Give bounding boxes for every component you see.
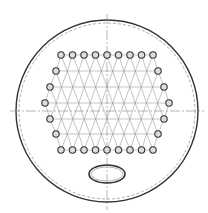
tube-hole bbox=[81, 52, 87, 58]
tube-hole bbox=[115, 147, 121, 153]
lattice-diagonal-line bbox=[73, 87, 79, 103]
lattice-diagonal-line bbox=[84, 103, 90, 119]
tube-hole bbox=[58, 52, 64, 58]
lattice-diagonal-line bbox=[79, 87, 84, 103]
tube-hole bbox=[53, 68, 59, 74]
lattice-diagonal-line bbox=[73, 71, 79, 87]
lattice-diagonal-line bbox=[79, 71, 85, 87]
lattice-diagonal-line bbox=[118, 119, 124, 134]
tube-hole bbox=[161, 116, 167, 122]
lattice-diagonal-line bbox=[96, 119, 102, 134]
tube-hole bbox=[166, 100, 172, 106]
lattice-diagonal-line bbox=[113, 119, 119, 134]
lattice-diagonal-line bbox=[73, 119, 79, 134]
lattice-diagonal-line bbox=[79, 119, 85, 134]
lattice-diagonal-line bbox=[68, 103, 73, 119]
lattice-diagonal-line bbox=[101, 119, 107, 134]
tube-hole bbox=[53, 131, 59, 137]
tube-hole bbox=[104, 147, 110, 153]
lattice-diagonal-line bbox=[61, 119, 67, 134]
lattice-diagonal-line bbox=[84, 119, 90, 134]
lattice-diagonal-line bbox=[68, 87, 73, 103]
tube-hole bbox=[69, 52, 75, 58]
lattice-diagonal-line bbox=[107, 71, 113, 87]
tube-hole bbox=[138, 52, 144, 58]
tube-hole bbox=[81, 147, 87, 153]
lattice-diagonal-line bbox=[96, 87, 102, 103]
lattice-diagonal-line bbox=[90, 71, 96, 87]
lattice-diagonal-line bbox=[141, 87, 146, 103]
lattice-diagonal-line bbox=[135, 119, 141, 134]
lattice-diagonal-line bbox=[84, 87, 90, 103]
tube-hole bbox=[127, 147, 133, 153]
tube-hole bbox=[47, 116, 53, 122]
tube-hole bbox=[42, 100, 48, 106]
lattice-diagonal-line bbox=[130, 87, 135, 103]
tube-hole bbox=[92, 147, 98, 153]
lattice-diagonal-line bbox=[61, 87, 67, 103]
tube-hole bbox=[155, 131, 161, 137]
lattice-diagonal-line bbox=[124, 87, 130, 103]
tube-hole bbox=[150, 147, 156, 153]
tube-hole bbox=[161, 84, 167, 90]
lattice-diagonal-line bbox=[130, 119, 136, 134]
tube-hole bbox=[115, 52, 121, 58]
lattice-diagonal-line bbox=[61, 71, 67, 87]
lattice-diagonal-line bbox=[101, 71, 107, 87]
lattice-diagonal-line bbox=[107, 87, 113, 103]
lattice-diagonal-line bbox=[135, 71, 141, 87]
lattice-diagonal-line bbox=[113, 71, 119, 87]
lattice-diagonal-line bbox=[135, 87, 141, 103]
lattice-diagonal-line bbox=[107, 119, 113, 134]
lattice-diagonal-line bbox=[147, 71, 153, 87]
tube-hole bbox=[92, 52, 98, 58]
lattice-diagonal-line bbox=[130, 71, 136, 87]
tube-hole bbox=[138, 147, 144, 153]
tube-hole bbox=[47, 84, 53, 90]
lattice-diagonal-line bbox=[153, 87, 158, 103]
lattice-diagonal-line bbox=[113, 87, 119, 103]
lattice-diagonal-line bbox=[101, 87, 107, 103]
tube-hole bbox=[127, 52, 133, 58]
lattice-diagonal-line bbox=[96, 71, 102, 87]
lattice-diagonal-line bbox=[67, 119, 72, 134]
lattice-diagonal-line bbox=[90, 119, 96, 134]
lattice-diagonal-line bbox=[84, 71, 90, 87]
tube-sheet-drawing bbox=[0, 0, 208, 213]
tube-hole bbox=[150, 52, 156, 58]
lattice-diagonal-line bbox=[56, 87, 61, 103]
tube-hole bbox=[69, 147, 75, 153]
lattice-diagonal-line bbox=[90, 87, 96, 103]
lattice-diagonal-line bbox=[118, 71, 124, 87]
lattice-diagonal-line bbox=[67, 71, 72, 87]
lattice-diagonal-line bbox=[141, 119, 146, 134]
lattice-diagonal-line bbox=[124, 119, 130, 134]
tube-hole bbox=[155, 68, 161, 74]
lattice-diagonal-line bbox=[147, 119, 153, 134]
lattice-diagonal-line bbox=[118, 87, 124, 103]
tube-hole bbox=[104, 52, 110, 58]
lattice-diagonal-line bbox=[124, 71, 130, 87]
lattice-diagonal-line bbox=[141, 71, 146, 87]
lattice-diagonal-line bbox=[146, 87, 152, 103]
tube-hole bbox=[58, 147, 64, 153]
